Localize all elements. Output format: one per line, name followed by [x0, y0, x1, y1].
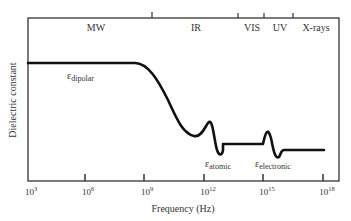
x-tick-label-1e18: 1018: [319, 185, 335, 197]
label-epsilon-atomic: εatomic: [205, 158, 231, 171]
x-tick-label-1e6: 106: [82, 185, 95, 197]
label-epsilon-electronic: εelectronic: [255, 158, 291, 171]
region-label-vis: VIS: [244, 22, 260, 33]
region-label-xrays: X-rays: [302, 22, 329, 33]
x-tick-label-1e9: 109: [141, 185, 153, 197]
region-dividers: [152, 12, 293, 18]
y-axis-label: Dielectric constant: [7, 62, 18, 137]
label-epsilon-dipolar: εdipolar: [67, 70, 94, 83]
x-axis-ticks: [85, 174, 323, 181]
region-label-uv: UV: [273, 22, 288, 33]
x-tick-label-1e12: 1012: [200, 185, 216, 197]
plot-frame: [28, 18, 339, 181]
x-tick-label-1e3: 103: [25, 185, 37, 197]
x-tick-label-1e15: 1015: [259, 185, 275, 197]
dielectric-chart: MW IR VIS UV X-rays εdipolar εatomic εel…: [0, 0, 351, 221]
region-label-ir: IR: [191, 22, 201, 33]
x-axis-label: Frequency (Hz): [151, 203, 214, 215]
region-label-mw: MW: [87, 22, 106, 33]
